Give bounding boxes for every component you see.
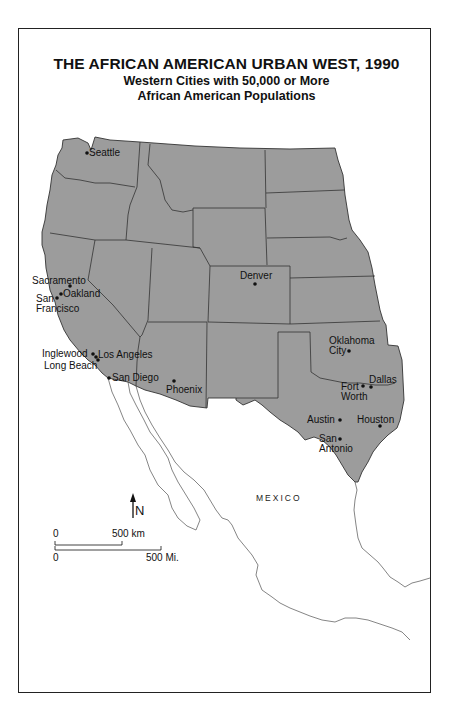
scale-mi-start: 0 [53, 552, 59, 563]
san-diego-dot [107, 376, 111, 380]
city-label-seattle: Seattle [89, 147, 120, 158]
north-arrow-label: N [135, 503, 144, 518]
oklahoma-city-dot [347, 349, 351, 353]
scale-km-start: 0 [53, 528, 59, 539]
fort-worth-dot [361, 384, 365, 388]
city-label-los-angeles: Los Angeles [98, 349, 153, 360]
city-label-phoenix: Phoenix [166, 384, 202, 395]
city-label-inglewood: Inglewood [42, 348, 88, 359]
city-label-long-beach: Long Beach [44, 360, 97, 371]
austin-dot [338, 418, 342, 422]
country-label-mexico: MEXICO [256, 493, 302, 503]
scale-bar [55, 541, 161, 550]
city-label-oakland: Oakland [63, 288, 100, 299]
city-label-denver: Denver [240, 270, 272, 281]
city-label-san-francisco-2: Francisco [36, 303, 79, 314]
city-label-houston: Houston [357, 414, 394, 425]
san-antonio-dot [338, 437, 342, 441]
san-francisco-dot [55, 296, 59, 300]
scale-km-end: 500 km [112, 528, 145, 539]
city-label-fort-worth-2: Worth [341, 391, 368, 402]
phoenix-dot [172, 379, 176, 383]
city-label-san-antonio-2: Antonio [319, 443, 353, 454]
city-label-austin: Austin [307, 414, 335, 425]
city-label-oklahoma-city-2: City [329, 345, 346, 356]
city-label-sacramento: Sacramento [32, 275, 86, 286]
city-label-dallas: Dallas [369, 374, 397, 385]
us-landmass [42, 137, 404, 482]
dallas-dot [369, 385, 373, 389]
scale-mi-end: 500 Mi. [146, 552, 179, 563]
denver-dot [253, 282, 257, 286]
inglewood-dot [91, 352, 95, 356]
city-label-san-diego: San Diego [112, 372, 159, 383]
